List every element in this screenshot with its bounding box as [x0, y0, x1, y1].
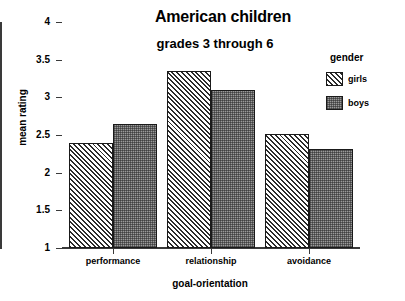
y-tick-label: 2: [10, 167, 50, 178]
y-tick-label: 4: [10, 16, 50, 27]
y-tick-label: 2.5: [10, 129, 50, 140]
y-tick: [56, 135, 62, 136]
x-axis-label: goal-orientation: [130, 278, 290, 289]
y-tick: [56, 248, 62, 249]
x-tick: [113, 249, 114, 254]
y-tick: [56, 173, 62, 174]
y-tick-label: 3: [10, 91, 50, 102]
bar-avoidance-boys: [309, 149, 353, 248]
bar-relationship-girls: [167, 71, 211, 248]
y-axis-line: [0, 22, 2, 249]
y-tick: [56, 22, 62, 23]
chart-subtitle: grades 3 through 6: [110, 36, 320, 51]
legend-swatch-girls: [326, 72, 343, 86]
legend-title: gender: [330, 52, 363, 63]
y-tick-label: 1.5: [10, 204, 50, 215]
legend-label-boys: boys: [348, 98, 369, 108]
bar-relationship-boys: [211, 90, 255, 248]
y-axis-label: mean rating: [17, 78, 28, 158]
y-tick: [56, 97, 62, 98]
x-tick-label: relationship: [161, 256, 261, 266]
legend-swatch-boys: [326, 96, 343, 110]
chart-title: American children: [118, 8, 328, 26]
x-tick-label: performance: [63, 256, 163, 266]
y-tick: [56, 60, 62, 61]
bar-performance-girls: [69, 143, 113, 248]
y-tick-label: 1: [10, 242, 50, 253]
y-tick: [56, 210, 62, 211]
x-tick-label: avoidance: [259, 256, 359, 266]
x-tick: [211, 249, 212, 254]
legend-item-girls: girls: [326, 72, 367, 86]
y-tick-label: 3.5: [10, 54, 50, 65]
bar-avoidance-girls: [265, 134, 309, 248]
x-tick: [309, 249, 310, 254]
legend-item-boys: boys: [326, 96, 369, 110]
bar-performance-boys: [113, 124, 157, 248]
legend-label-girls: girls: [348, 74, 367, 84]
bar-chart: American children grades 3 through 6 mea…: [0, 0, 405, 301]
